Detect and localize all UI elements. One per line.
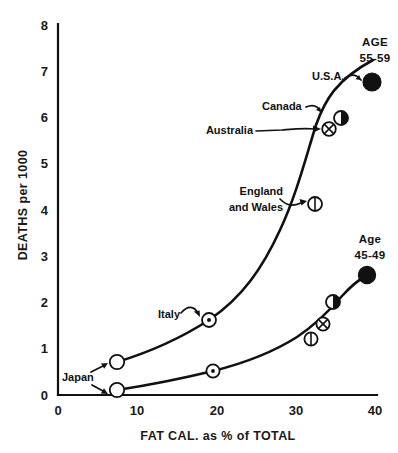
series-label-55-59-line1: AGE xyxy=(362,36,388,48)
annotation-england-label-line2: and Wales xyxy=(229,201,283,213)
markers-age-45-49 xyxy=(110,266,376,397)
annotation-england-label-line1: England xyxy=(240,185,283,197)
annotation-italy-arrowhead xyxy=(194,310,200,317)
x-tick-30: 30 xyxy=(289,403,303,418)
annotation-england-arrowhead xyxy=(300,199,308,205)
annotation-japan-label: Japan xyxy=(62,371,94,383)
y-tick-3: 3 xyxy=(41,249,48,264)
marker-england-wales-55-59 xyxy=(308,197,322,211)
marker-japan-55-59 xyxy=(110,355,124,369)
x-axis-title: FAT CAL. as % of TOTAL xyxy=(140,429,295,443)
x-tick-10: 10 xyxy=(130,403,144,418)
series-label-55-59-line2: 55-59 xyxy=(360,52,391,64)
marker-italy-55-59 xyxy=(202,313,216,327)
annotation-japan-arrow-upper xyxy=(91,366,103,372)
annotation-canada: Canada xyxy=(262,100,321,112)
y-tick-4: 4 xyxy=(41,203,49,218)
x-tick-20: 20 xyxy=(210,403,224,418)
annotation-usa-label: U.S.A. xyxy=(312,70,344,82)
marker-australia-55-59 xyxy=(322,122,336,136)
series-label-45-49-line2: 45-49 xyxy=(355,249,386,261)
markers-age-55-59 xyxy=(110,73,381,369)
filled-circle-icon xyxy=(363,73,381,91)
series-label-45-49-line1: Age xyxy=(359,233,382,245)
marker-canada-55-59 xyxy=(334,111,348,125)
marker-australia-45-49 xyxy=(316,317,329,330)
annotation-italy-label: Italy xyxy=(158,308,181,320)
y-tick-0: 0 xyxy=(41,388,48,403)
series-label-age-45-49: Age 45-49 xyxy=(355,233,386,261)
annotation-australia-arrowhead xyxy=(313,126,321,133)
marker-england-wales-45-49 xyxy=(304,332,317,345)
series-label-age-55-59: AGE 55-59 xyxy=(360,36,391,64)
marker-usa-45-49 xyxy=(358,266,375,283)
x-tick-40: 40 xyxy=(368,403,382,418)
chart-figure: 8 7 6 5 4 3 2 1 0 0 10 20 30 40 FAT CAL.… xyxy=(0,0,398,453)
marker-japan-45-49 xyxy=(110,383,124,397)
annotation-japan: Japan xyxy=(62,363,108,394)
y-tick-7: 7 xyxy=(41,64,48,79)
annotation-australia: Australia xyxy=(206,124,321,136)
open-circle-icon xyxy=(110,383,124,397)
x-tick-labels: 0 10 20 30 40 xyxy=(54,403,382,418)
open-circle-icon xyxy=(110,355,124,369)
marker-canada-45-49 xyxy=(326,295,340,309)
y-tick-8: 8 xyxy=(41,18,48,33)
y-tick-5: 5 xyxy=(41,156,48,171)
chart-canvas: 8 7 6 5 4 3 2 1 0 0 10 20 30 40 FAT CAL.… xyxy=(0,0,398,453)
y-tick-6: 6 xyxy=(41,110,48,125)
y-tick-2: 2 xyxy=(41,295,48,310)
annotation-canada-label: Canada xyxy=(262,100,303,112)
annotation-japan-arrow-lower xyxy=(92,385,103,391)
annotation-australia-arrow xyxy=(256,129,315,131)
y-tick-1: 1 xyxy=(41,341,48,356)
y-tick-labels: 8 7 6 5 4 3 2 1 0 xyxy=(41,18,49,403)
annotation-italy: Italy xyxy=(158,307,200,320)
filled-circle-icon xyxy=(358,266,375,283)
dot-circle-center xyxy=(207,318,211,322)
x-tick-0: 0 xyxy=(54,403,61,418)
annotation-australia-label: Australia xyxy=(206,124,254,136)
dot-circle-center xyxy=(211,369,215,373)
marker-italy-45-49 xyxy=(206,364,219,377)
marker-usa-55-59 xyxy=(363,73,381,91)
y-axis-title: DEATHS per 1000 xyxy=(16,150,30,261)
